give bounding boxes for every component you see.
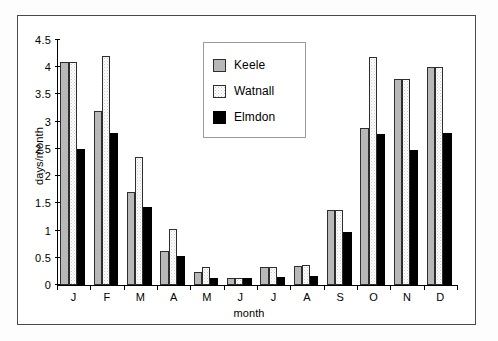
y-tick: 0 [0, 279, 60, 291]
y-tick: 0.5 [0, 252, 60, 264]
x-tick-mark [224, 285, 225, 290]
bar-elmdon-m-4 [210, 278, 218, 285]
y-axis-title: days/month [33, 111, 45, 201]
y-tick-mark [55, 230, 60, 231]
bar-watnall-m-4 [202, 267, 210, 286]
bar-elmdon-f-1 [110, 133, 118, 285]
bar-elmdon-o-9 [377, 134, 385, 285]
y-axis-line [57, 39, 58, 286]
legend-swatch-keele [213, 59, 226, 72]
bar-watnall-d-11 [435, 67, 443, 285]
y-tick: 2 [0, 170, 60, 182]
y-tick-mark [55, 93, 60, 94]
bar-elmdon-j-5 [243, 278, 251, 285]
legend-item-elmdon: Elmdon [213, 104, 305, 130]
bar-group [360, 39, 385, 285]
y-tick-label: 0.5 [35, 252, 51, 264]
bar-watnall-m-2 [135, 157, 143, 285]
bar-watnall-n-10 [402, 79, 410, 285]
y-tick-mark [55, 257, 60, 258]
bar-keele-o-9 [360, 128, 368, 285]
y-tick-label: 4.5 [35, 34, 51, 46]
y-tick-label: 0 [45, 279, 51, 291]
bar-keele-a-7 [294, 266, 302, 285]
x-tick-mark [124, 285, 125, 290]
bar-keele-d-11 [427, 67, 435, 285]
x-tick-mark [424, 285, 425, 290]
bar-watnall-j-6 [269, 267, 277, 286]
legend-swatch-elmdon [213, 111, 226, 124]
bar-group [94, 39, 119, 285]
bar-elmdon-j-6 [277, 277, 285, 285]
bar-watnall-f-1 [102, 56, 110, 285]
bar-keele-a-3 [160, 251, 168, 285]
x-tick-mark [390, 285, 391, 290]
bar-watnall-o-9 [369, 57, 377, 285]
x-axis-title: month [0, 307, 498, 319]
bar-keele-f-1 [94, 111, 102, 285]
x-tick-mark [290, 285, 291, 290]
bar-watnall-j-5 [235, 278, 243, 285]
x-tick-mark [357, 285, 358, 290]
chart-figure: 00.511.522.533.544.5 days/month JFMAMJJA… [0, 0, 498, 341]
y-tick-mark [55, 121, 60, 122]
bar-group [394, 39, 419, 285]
x-tick-mark [190, 285, 191, 290]
legend-label-watnall: Watnall [234, 84, 274, 98]
x-tick-mark [257, 285, 258, 290]
bar-watnall-a-7 [302, 265, 310, 285]
y-tick: 3 [0, 116, 60, 128]
y-tick-label: 3 [45, 116, 51, 128]
y-tick-mark [55, 66, 60, 67]
bar-keele-s-8 [327, 210, 335, 285]
bar-group [427, 39, 452, 285]
bar-elmdon-s-8 [343, 232, 351, 285]
bar-elmdon-a-3 [177, 256, 185, 285]
bar-keele-m-2 [127, 192, 135, 285]
bar-elmdon-n-10 [410, 150, 418, 285]
x-tick-mark [90, 285, 91, 290]
bar-group [60, 39, 85, 285]
chart-legend: KeeleWatnallElmdon [203, 42, 306, 138]
y-tick-label: 4 [45, 61, 51, 73]
bar-elmdon-j-0 [77, 149, 85, 285]
bar-keele-m-4 [194, 272, 202, 285]
bar-watnall-a-3 [169, 229, 177, 285]
y-tick-mark [55, 148, 60, 149]
bar-watnall-j-0 [69, 62, 77, 285]
x-tick-mark [157, 285, 158, 290]
y-tick-label: 1 [45, 225, 51, 237]
bar-group [127, 39, 152, 285]
legend-label-keele: Keele [234, 58, 265, 72]
bar-keele-n-10 [394, 79, 402, 285]
x-tick-mark [57, 285, 58, 290]
legend-item-keele: Keele [213, 52, 305, 78]
x-tick-label-11: D [420, 291, 460, 303]
y-tick: 3.5 [0, 88, 60, 100]
bar-elmdon-a-7 [310, 276, 318, 285]
legend-item-watnall: Watnall [213, 78, 305, 104]
bar-group [327, 39, 352, 285]
bar-elmdon-m-2 [143, 207, 151, 285]
y-tick: 1 [0, 225, 60, 237]
bar-group [160, 39, 185, 285]
y-tick-label: 3.5 [35, 88, 51, 100]
y-tick: 4.5 [0, 34, 60, 46]
bar-watnall-s-8 [335, 210, 343, 285]
y-tick: 4 [0, 61, 60, 73]
y-tick: 2.5 [0, 143, 60, 155]
y-tick-mark [55, 202, 60, 203]
bar-keele-j-5 [227, 278, 235, 285]
plot-area: 00.511.522.533.544.5 days/month JFMAMJJA… [0, 0, 498, 341]
x-tick-mark [457, 285, 458, 290]
y-tick-mark [55, 175, 60, 176]
y-tick-label: 2 [45, 170, 51, 182]
y-tick: 1.5 [0, 197, 60, 209]
bar-keele-j-0 [60, 62, 68, 285]
x-tick-mark [324, 285, 325, 290]
legend-swatch-watnall [213, 85, 226, 98]
bar-keele-j-6 [260, 267, 268, 286]
y-tick-mark [55, 39, 60, 40]
legend-label-elmdon: Elmdon [234, 110, 275, 124]
bar-elmdon-d-11 [443, 133, 451, 285]
